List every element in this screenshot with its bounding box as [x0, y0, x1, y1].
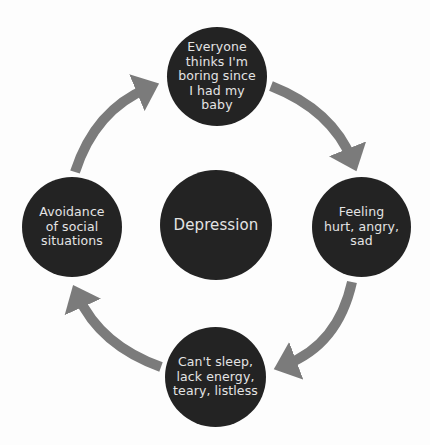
arrow-right-to-bottom: [285, 282, 352, 365]
center-label: Depression: [174, 216, 259, 234]
node-label: Everyone thinks I'm boring since I had m…: [178, 40, 256, 113]
cycle-node-left: Avoidance of social situations: [22, 177, 122, 277]
center-node-depression: Depression: [160, 170, 272, 280]
arrow-left-to-top: [75, 88, 148, 172]
node-label: Can't sleep, lack energy, teary, listles…: [173, 355, 258, 399]
cycle-node-bottom: Can't sleep, lack energy, teary, listles…: [165, 327, 266, 427]
cycle-node-right: Feeling hurt, angry, sad: [312, 177, 411, 277]
arrow-bottom-to-left: [78, 296, 161, 367]
arrow-top-to-right: [271, 86, 352, 160]
node-label: Feeling hurt, angry, sad: [324, 205, 399, 249]
cycle-node-top: Everyone thinks I'm boring since I had m…: [167, 27, 267, 126]
node-label: Avoidance of social situations: [39, 205, 104, 249]
